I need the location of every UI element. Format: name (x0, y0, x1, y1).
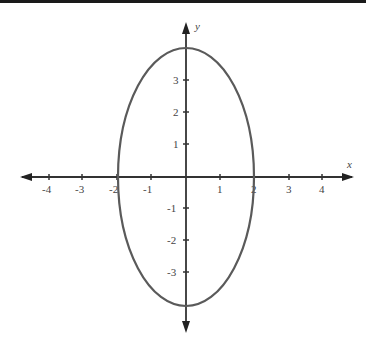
arrow-down-icon (182, 321, 190, 333)
xtick-1: 1 (217, 183, 223, 195)
arrow-right-icon (342, 173, 354, 181)
xtick-4: 4 (319, 183, 325, 195)
xtick-neg1: -1 (143, 183, 152, 195)
x-axis-label: x (346, 158, 352, 170)
arrow-up-icon (182, 22, 190, 34)
xtick-3: 3 (286, 183, 292, 195)
ytick-1: 1 (173, 138, 179, 150)
xtick-neg4: -4 (42, 183, 52, 195)
x-axis: -4 -3 -2 -1 1 2 3 4 x (20, 158, 354, 195)
y-axis-label: y (194, 20, 200, 32)
xtick-neg2: -2 (109, 183, 118, 195)
ytick-neg3: -3 (167, 266, 177, 278)
ytick-2: 2 (173, 106, 179, 118)
ytick-neg1: -1 (167, 202, 176, 214)
ytick-3: 3 (173, 74, 179, 86)
ytick-neg2: -2 (167, 234, 176, 246)
chart-canvas: -4 -3 -2 -1 1 2 3 4 x 3 2 1 -1 -2 -3 y (0, 0, 366, 345)
xtick-neg3: -3 (75, 183, 85, 195)
arrow-left-icon (20, 173, 32, 181)
